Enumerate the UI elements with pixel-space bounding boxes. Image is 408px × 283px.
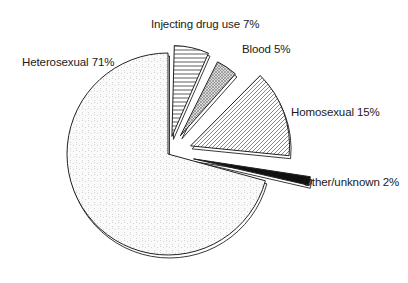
label-injecting-drug-use: Injecting drug use 7% <box>151 18 260 30</box>
label-heterosexual: Heterosexual 71% <box>22 56 114 68</box>
pie-chart <box>0 0 408 283</box>
label-blood: Blood 5% <box>242 43 290 55</box>
label-homosexual: Homosexual 15% <box>291 106 380 118</box>
label-other-unknown: Other/unknown 2% <box>303 176 399 188</box>
slice-heterosexual <box>67 53 265 255</box>
